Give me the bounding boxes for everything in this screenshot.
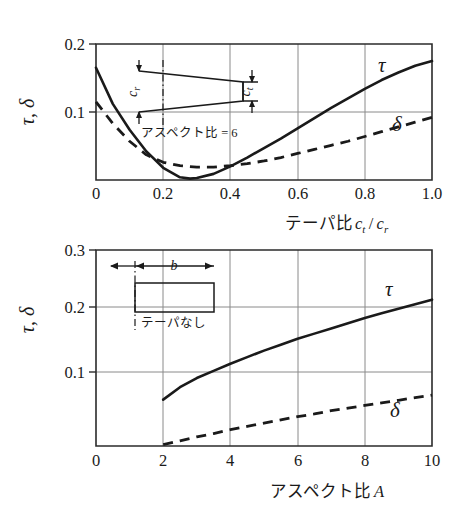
bottom-plot-frame — [96, 250, 432, 446]
top-x-axis-title: テーパ比 ct / cr — [285, 214, 389, 235]
top-xtick-label-1.0: 1.0 — [422, 184, 443, 203]
top-xtick-label-0.6: 0.6 — [288, 184, 309, 203]
inset-no-taper-caption: テーパなし — [141, 316, 206, 330]
top-y-ticks — [89, 44, 96, 112]
top-ytick-label-0.2: 0.2 — [64, 35, 85, 54]
bottom-y-ticks — [89, 250, 96, 372]
inset-b-arrowhead-right — [205, 263, 213, 270]
top-ytick-label-0.1: 0.1 — [64, 103, 85, 122]
inset-aspect-ratio-caption: アスペクト比 = 6 — [141, 126, 238, 140]
top-xtick-label-0.8: 0.8 — [355, 184, 376, 203]
aspect-ratio-chart: b テーパなし τ δ 0.3 0.2 0.1 0 2 4 6 8 10 τ, … — [16, 241, 440, 501]
inset-b-arrowhead-left — [136, 263, 144, 270]
two-panel-chart-figure: cr ct アスペクト比 = 6 — [0, 0, 472, 523]
bottom-ytick-label-0.2: 0.2 — [64, 298, 85, 317]
inset-b-label: b — [171, 258, 178, 273]
inset-b-stub-arrowhead — [110, 263, 118, 270]
bottom-x-axis-title: アスペクト比 A — [270, 482, 385, 501]
top-xtick-label-0: 0 — [92, 184, 100, 203]
top-x-axis-title-jp: テーパ比 — [285, 214, 353, 233]
bottom-ytick-label-0.1: 0.1 — [64, 363, 85, 382]
bottom-curve-label-delta: δ — [390, 398, 401, 422]
bottom-xtick-label-10: 10 — [424, 451, 441, 470]
inset-span-dimension: b — [110, 258, 214, 273]
bottom-x-axis-title-sym: A — [373, 482, 385, 501]
inset-ct-dimension: ct — [238, 70, 258, 113]
top-curve-label-delta: δ — [392, 112, 403, 136]
top-xtick-label-0.4: 0.4 — [220, 184, 241, 203]
inset-ct-label: ct — [238, 87, 255, 96]
bottom-gridlines — [96, 250, 432, 446]
bottom-xtick-label-6: 6 — [294, 451, 302, 470]
top-y-axis-title: τ, δ — [16, 98, 38, 125]
bottom-x-axis-title-jp: アスペクト比 — [270, 482, 371, 501]
bottom-xtick-label-0: 0 — [92, 451, 100, 470]
top-x-axis-title-expr: ct / cr — [355, 214, 389, 235]
taper-ratio-chart: cr ct アスペクト比 = 6 — [16, 35, 442, 235]
bottom-xtick-label-8: 8 — [361, 451, 369, 470]
inset-rect-wing — [135, 283, 214, 312]
bottom-curve-label-tau: τ — [385, 277, 394, 301]
bottom-xtick-label-2: 2 — [159, 451, 167, 470]
bottom-xtick-label-4: 4 — [226, 451, 234, 470]
bottom-inset-rectangular-wing: b テーパなし — [110, 258, 214, 330]
inset-wing-outline — [139, 71, 243, 112]
inset-cr-dimension: cr — [125, 60, 142, 124]
bottom-y-axis-title: τ, δ — [16, 306, 38, 333]
top-curve-label-tau: τ — [378, 53, 387, 77]
figure-root: cr ct アスペクト比 = 6 — [0, 0, 472, 523]
top-xtick-label-0.2: 0.2 — [153, 184, 174, 203]
inset-cr-label: cr — [125, 87, 142, 97]
bottom-ytick-label-0.3: 0.3 — [64, 241, 85, 260]
top-inset-tapered-wing: cr ct アスペクト比 = 6 — [125, 60, 258, 140]
